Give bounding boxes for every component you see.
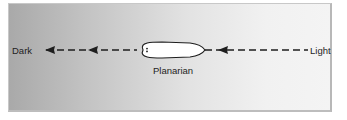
dark-label: Dark [12, 46, 32, 56]
arrowhead-right [218, 46, 228, 54]
phototaxis-diagram [0, 0, 347, 120]
arrowhead-left-inner [88, 46, 98, 54]
planarian-eyespot-icon [146, 51, 148, 53]
planarian-body [142, 42, 205, 58]
planarian-label: Planarian [153, 66, 193, 76]
light-label: Light [310, 46, 331, 56]
planarian-eyespot-icon [146, 48, 148, 50]
arrowhead-left-outer [45, 46, 55, 54]
